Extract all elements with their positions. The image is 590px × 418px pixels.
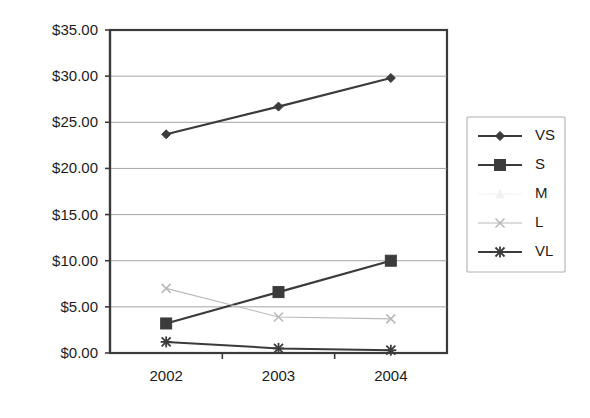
legend-label-m: M [535,184,548,201]
legend: VSSMLVL [467,117,565,272]
legend-label-s: S [535,155,545,172]
chart-container: $0.00$5.00$10.00$15.00$20.00$25.00$30.00… [0,0,590,418]
y-tick-label: $0.00 [60,344,98,361]
y-tick-label: $5.00 [60,298,98,315]
data-point-s [385,255,396,266]
legend-label-vs: VS [535,126,555,143]
legend-label-l: L [535,213,543,230]
y-tick-label: $35.00 [52,21,98,38]
y-tick-label: $15.00 [52,206,98,223]
x-tick-label: 2003 [262,367,295,384]
data-point-s [161,318,172,329]
x-tick-label: 2004 [374,367,407,384]
legend-marker-vl [495,247,506,258]
line-chart: $0.00$5.00$10.00$15.00$20.00$25.00$30.00… [0,0,590,418]
y-tick-label: $20.00 [52,159,98,176]
y-tick-label: $30.00 [52,67,98,84]
x-tick-label: 2002 [149,367,182,384]
y-tick-label: $25.00 [52,113,98,130]
data-point-s [273,287,284,298]
legend-label-vl: VL [535,242,553,259]
legend-marker-s [495,160,506,171]
y-tick-label: $10.00 [52,252,98,269]
data-point-vl [161,336,172,347]
plot-area-frame [110,30,447,353]
